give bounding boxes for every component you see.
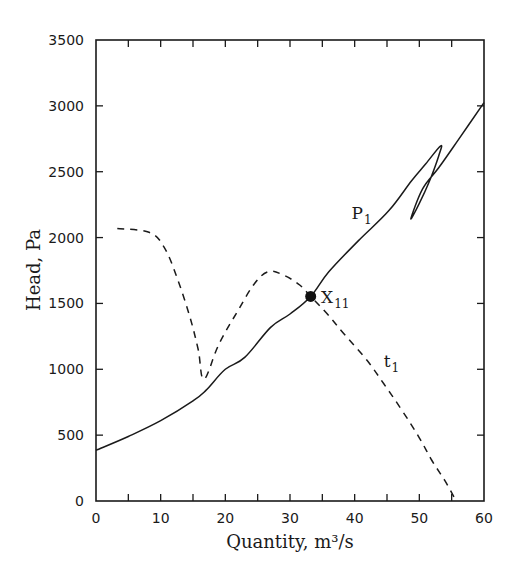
intersection-marker [305,291,316,302]
plot-curves [96,103,484,501]
axis-ticks [96,40,484,501]
y-tick-label: 3500 [48,32,84,48]
y-tick-label: 1000 [48,361,84,377]
y-tick-label: 0 [75,493,84,509]
label-p1: P1 [351,203,371,227]
y-tick-label: 500 [57,427,84,443]
x-tick-label: 10 [152,510,170,526]
x-tick-label: 60 [475,510,493,526]
curve-p1 [96,103,484,451]
y-tick-label: 3000 [48,98,84,114]
y-tick-label: 2500 [48,164,84,180]
x-tick-label: 0 [92,510,101,526]
y-axis-label: Head, Pa [23,229,44,311]
axis-tick-labels: 0102030405060050010001500200025003000350… [48,32,493,526]
label-t1: t1 [384,351,399,375]
plot-border [96,40,484,501]
x-tick-label: 50 [410,510,428,526]
plot-frame [96,40,484,501]
x-tick-label: 30 [281,510,299,526]
chart-figure: 0102030405060050010001500200025003000350… [0,0,516,578]
label-x11: X11 [321,287,349,311]
y-tick-label: 1500 [48,295,84,311]
x-tick-label: 40 [346,510,364,526]
y-tick-label: 2000 [48,230,84,246]
curve-t1 [117,229,456,501]
curve-labels: P1t1X11 [305,203,399,375]
x-tick-label: 20 [216,510,234,526]
x-axis-label: Quantity, m³/s [226,531,354,552]
